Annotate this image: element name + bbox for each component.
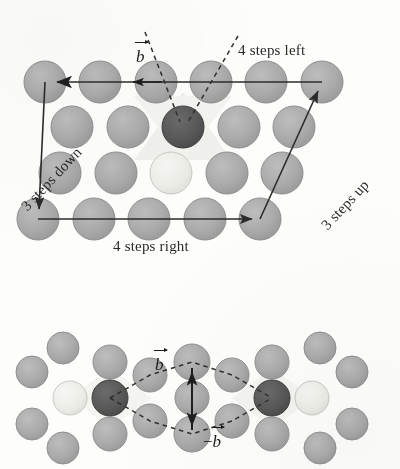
vector-b-down-text: b [213,432,222,452]
label-burgers-vector-upper: b [136,47,145,67]
label-burgers-vector-up-lower: b [155,355,164,375]
vector-b-text: b [136,47,145,67]
label-4-steps-left: 4 steps left [238,42,305,59]
label-burgers-vector-down-lower: −b [203,432,221,452]
figure-root: 4 steps left 4 steps right 3 steps down … [0,0,400,469]
atom-light-upper [150,152,192,194]
atom-light-lower-left [53,381,87,415]
vector-b-up-text: b [155,355,164,375]
atom-light-lower-right [295,381,329,415]
label-4-steps-right: 4 steps right [113,238,189,255]
atom-dark-core-lower-right [254,380,290,416]
atom-row-second [51,106,315,148]
atom-dark-core-upper [162,106,204,148]
lattice-diagram-svg [0,0,400,469]
